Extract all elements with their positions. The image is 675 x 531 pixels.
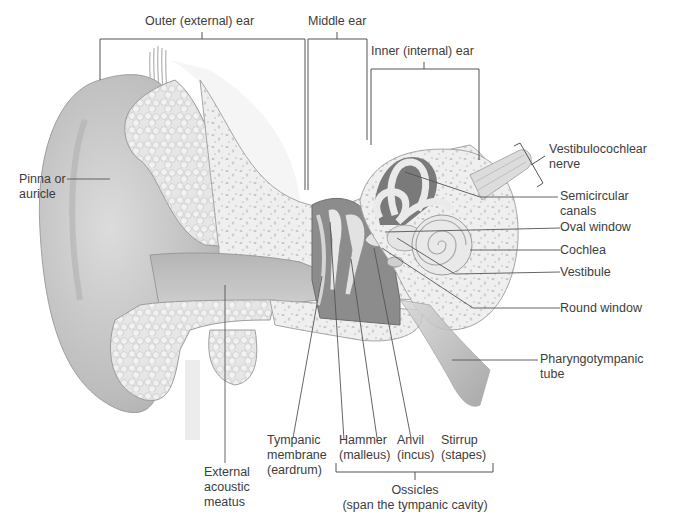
- label-hammer: Hammer (malleus): [339, 433, 390, 463]
- label-round-window: Round window: [560, 301, 642, 316]
- label-oval-window: Oval window: [560, 220, 631, 235]
- label-vestibule: Vestibule: [560, 265, 611, 280]
- ear-anatomy-diagram: Outer (external) ear Middle ear Inner (i…: [0, 0, 675, 531]
- label-stirrup: Stirrup (stapes): [441, 433, 486, 463]
- label-vestibulocochlear-nerve: Vestibulocochlear nerve: [549, 142, 647, 172]
- label-cochlea: Cochlea: [560, 243, 606, 258]
- label-anvil: Anvil (incus): [397, 433, 435, 463]
- label-semicircular-canals: Semicircular canals: [560, 189, 629, 219]
- label-pinna: Pinna or auricle: [19, 172, 66, 202]
- label-ossicles: Ossicles (span the tympanic cavity): [335, 483, 495, 513]
- label-external-acoustic-meatus: External acoustic meatus: [204, 465, 250, 510]
- label-pharyngotympanic-tube: Pharyngotympanic tube: [540, 352, 644, 382]
- label-inner-ear: Inner (internal) ear: [371, 44, 474, 59]
- label-tympanic-membrane: Tympanic membrane (eardrum): [267, 433, 327, 478]
- label-middle-ear: Middle ear: [308, 14, 366, 29]
- label-outer-ear: Outer (external) ear: [145, 14, 254, 29]
